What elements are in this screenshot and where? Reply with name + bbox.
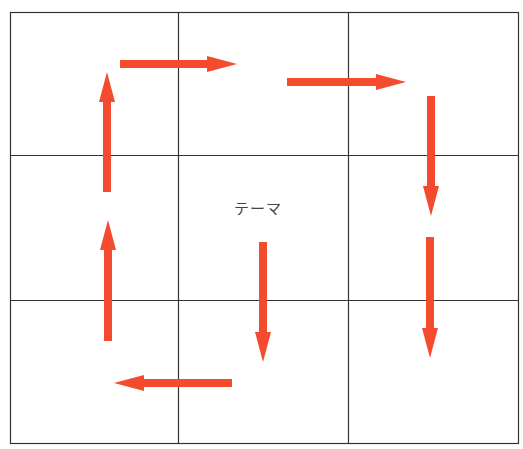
mandala-grid-diagram [0, 0, 523, 449]
arrows [99, 56, 439, 391]
center-theme-label: テーマ [234, 197, 282, 218]
arrow-left-icon [114, 375, 232, 391]
arrow-up-icon [100, 220, 116, 341]
arrow-up-icon [99, 72, 115, 192]
arrow-down-icon [422, 237, 438, 358]
arrow-down-icon [255, 242, 271, 362]
grid [10, 12, 519, 444]
grid-border [11, 13, 519, 444]
arrow-right-icon [287, 74, 406, 90]
